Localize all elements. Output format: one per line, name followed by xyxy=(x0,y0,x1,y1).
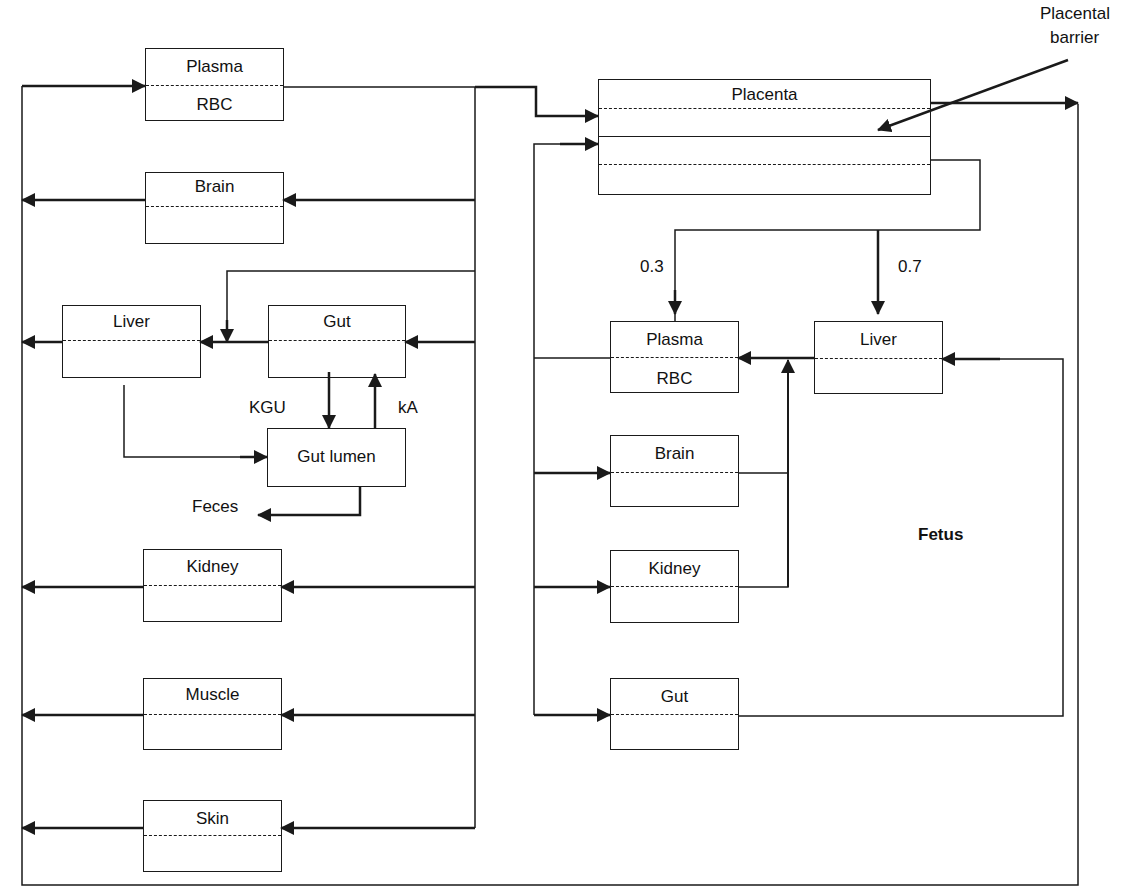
placenta-label: Placenta xyxy=(599,85,930,105)
split-liver-label: 0.7 xyxy=(898,257,922,277)
maternal-muscle-label: Muscle xyxy=(144,685,281,705)
placental-barrier-line xyxy=(599,136,930,137)
maternal-kidney-label: Kidney xyxy=(144,557,281,577)
maternal-liver-box: Liver xyxy=(62,305,201,378)
fetal-rbc-label: RBC xyxy=(611,369,738,389)
maternal-rbc-label: RBC xyxy=(146,95,283,115)
fetal-liver-label: Liver xyxy=(815,330,942,350)
placental-barrier-label-1: Placental xyxy=(1040,4,1110,24)
fetal-kidney-box: Kidney xyxy=(610,550,739,623)
placental-barrier-label-2: barrier xyxy=(1050,28,1099,48)
fetal-kidney-label: Kidney xyxy=(611,559,738,579)
fetal-liver-box: Liver xyxy=(814,321,943,394)
compartment-divider xyxy=(146,206,283,207)
maternal-liver-label: Liver xyxy=(63,312,200,332)
maternal-gut-box: Gut xyxy=(268,305,406,378)
compartment-divider xyxy=(611,472,738,473)
maternal-kidney-box: Kidney xyxy=(143,549,282,622)
maternal-gut-label: Gut xyxy=(269,312,405,332)
fetal-brain-box: Brain xyxy=(610,435,739,507)
compartment-divider xyxy=(599,164,930,165)
connection-lines xyxy=(0,0,1122,893)
fetal-gut-box: Gut xyxy=(610,678,739,750)
compartment-divider xyxy=(144,585,281,586)
maternal-plasma-box: Plasma RBC xyxy=(145,48,284,121)
compartment-divider xyxy=(611,714,738,715)
compartment-divider xyxy=(611,586,738,587)
maternal-skin-label: Skin xyxy=(144,809,281,829)
maternal-plasma-label: Plasma xyxy=(146,57,283,77)
compartment-divider xyxy=(144,714,281,715)
fetal-gut-label: Gut xyxy=(611,687,738,707)
rate-ka-label: kA xyxy=(398,398,418,418)
maternal-gut-lumen-box: Gut lumen xyxy=(267,428,406,487)
fetal-brain-label: Brain xyxy=(611,444,738,464)
compartment-divider xyxy=(269,340,405,341)
split-plasma-label: 0.3 xyxy=(640,257,664,277)
compartment-divider xyxy=(599,108,930,109)
maternal-brain-box: Brain xyxy=(145,172,284,244)
placenta-box: Placenta xyxy=(598,79,931,195)
maternal-skin-box: Skin xyxy=(143,800,282,872)
rate-kgu-label: KGU xyxy=(249,398,286,418)
fetal-plasma-label: Plasma xyxy=(611,330,738,350)
fetus-title: Fetus xyxy=(918,525,963,545)
fetal-plasma-box: Plasma RBC xyxy=(610,321,739,393)
compartment-divider xyxy=(815,358,942,359)
feces-label: Feces xyxy=(192,497,238,517)
compartment-divider xyxy=(611,357,738,358)
maternal-gut-lumen-label: Gut lumen xyxy=(268,447,405,467)
maternal-brain-label: Brain xyxy=(146,177,283,197)
compartment-divider xyxy=(63,340,200,341)
compartment-divider xyxy=(144,835,281,836)
compartment-divider xyxy=(146,85,283,86)
maternal-muscle-box: Muscle xyxy=(143,678,282,750)
